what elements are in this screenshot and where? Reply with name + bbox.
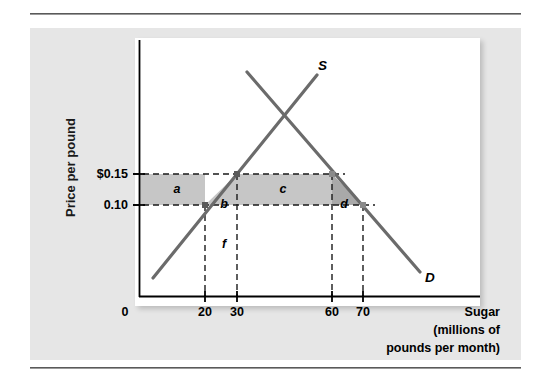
marker-equilibrium: [234, 171, 240, 177]
demand-curve-label: D: [425, 270, 435, 285]
region-label-d: d: [334, 197, 354, 211]
y-tick-label-015: $0.15: [58, 167, 128, 181]
supply-curve-label: S: [318, 58, 327, 73]
x-axis-title-line2: (millions of: [330, 323, 500, 337]
x-tick-label-30: 30: [217, 305, 257, 319]
region-label-b: b: [214, 197, 234, 211]
x-axis-title-line3: pounds per month): [310, 341, 500, 355]
marker-d-60: [329, 171, 335, 177]
marker-d-70: [360, 202, 366, 208]
x-tick-label-0: 0: [105, 305, 145, 319]
y-tick-label-010: 0.10: [58, 198, 128, 212]
region-label-a: a: [167, 182, 187, 196]
region-label-f: f: [214, 237, 234, 251]
x-axis-title-line1: Sugar: [330, 305, 500, 319]
region-label-c: c: [273, 182, 293, 196]
marker-s-20: [202, 202, 208, 208]
